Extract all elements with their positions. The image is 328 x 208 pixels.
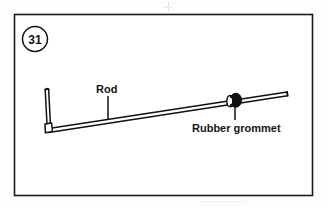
rod-far-end-cap [287, 92, 288, 96]
grommet-bore-highlight [229, 98, 232, 104]
step-number-text: 31 [28, 33, 42, 47]
scan-artifact-bottom [200, 201, 244, 202]
assembly-step-figure: 31 Rod [0, 0, 328, 208]
figure-frame [15, 15, 313, 196]
diagram-screenshot: 31 Rod [0, 0, 328, 208]
rod-bend-corner [45, 123, 52, 133]
rubber-grommet-part [227, 93, 242, 107]
rod-label-text: Rod [96, 83, 117, 95]
step-number-badge: 31 [23, 27, 48, 52]
rubber-grommet-label-text: Rubber grommet [192, 122, 281, 134]
